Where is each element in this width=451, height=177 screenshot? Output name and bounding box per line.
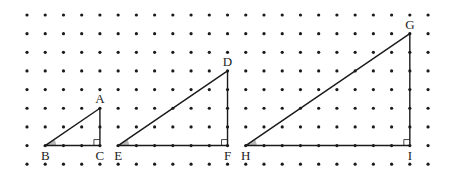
grid-dot — [335, 32, 338, 35]
vertex-label: H — [241, 148, 250, 163]
grid-dot — [335, 107, 338, 110]
grid-dot — [208, 88, 211, 91]
grid-dot — [80, 69, 83, 72]
grid-dot — [80, 32, 83, 35]
grid-dot — [62, 88, 65, 91]
diagram-svg: ABCDEFGHI — [0, 0, 451, 177]
grid-dot — [80, 107, 83, 110]
grid-dot — [426, 144, 429, 147]
grid-dot — [281, 32, 284, 35]
triangles: ABCDEFGHI — [41, 17, 415, 163]
grid-dot — [426, 125, 429, 128]
grid-dot — [80, 13, 83, 16]
grid-dot — [372, 88, 375, 91]
grid-dot — [335, 125, 338, 128]
grid-dot — [171, 125, 174, 128]
grid-dot — [189, 125, 192, 128]
grid-dot — [262, 32, 265, 35]
grid-dot — [281, 125, 284, 128]
grid-dot — [354, 125, 357, 128]
grid-dot — [117, 51, 120, 54]
vertex-label: D — [223, 54, 232, 69]
grid-dot — [226, 32, 229, 35]
grid-dot — [189, 32, 192, 35]
grid-dot — [44, 163, 47, 166]
grid-dot — [44, 51, 47, 54]
grid-dot — [208, 125, 211, 128]
grid-dot — [135, 13, 138, 16]
grid-dot — [98, 13, 101, 16]
grid-dot — [153, 107, 156, 110]
grid-dot — [299, 51, 302, 54]
grid-dot — [62, 32, 65, 35]
dot-grid-diagram: ABCDEFGHI — [0, 0, 451, 177]
grid-dot — [390, 69, 393, 72]
grid-dot — [299, 88, 302, 91]
grid-dot — [262, 88, 265, 91]
grid-dot — [335, 69, 338, 72]
grid-dot — [354, 163, 357, 166]
grid-dot — [25, 88, 28, 91]
triangle-outline — [246, 34, 410, 146]
grid-dot — [25, 125, 28, 128]
grid-dot — [317, 107, 320, 110]
grid-dot — [189, 163, 192, 166]
grid-dot — [426, 32, 429, 35]
grid-dot — [281, 107, 284, 110]
grid-dot — [117, 69, 120, 72]
grid-dot — [25, 69, 28, 72]
grid-dot — [299, 125, 302, 128]
grid-dot — [354, 32, 357, 35]
grid-dot — [299, 13, 302, 16]
grid-dot — [62, 51, 65, 54]
grid-dot — [171, 88, 174, 91]
grid-dot — [62, 107, 65, 110]
grid-dot — [171, 69, 174, 72]
grid-dot — [171, 51, 174, 54]
grid-dot — [153, 51, 156, 54]
grid-dot — [281, 88, 284, 91]
grid-dot — [390, 125, 393, 128]
grid-dot — [244, 88, 247, 91]
grid-dot — [372, 13, 375, 16]
grid-dot — [208, 163, 211, 166]
grid-dot — [244, 107, 247, 110]
grid-dot — [262, 51, 265, 54]
grid-dot — [135, 88, 138, 91]
grid-dot — [281, 51, 284, 54]
grid-dot — [317, 88, 320, 91]
grid-dot — [390, 13, 393, 16]
grid-dot — [208, 32, 211, 35]
grid-dot — [317, 13, 320, 16]
grid-dot — [44, 69, 47, 72]
grid-dot — [117, 32, 120, 35]
vertex-label: E — [114, 148, 122, 163]
grid-dot — [281, 13, 284, 16]
grid-dot — [189, 69, 192, 72]
grid-dot — [62, 69, 65, 72]
grid-dot — [44, 107, 47, 110]
grid-dot — [98, 51, 101, 54]
grid-dot — [262, 125, 265, 128]
grid-dot — [80, 51, 83, 54]
grid-dot — [335, 163, 338, 166]
grid-dot — [117, 125, 120, 128]
grid-dot — [372, 32, 375, 35]
grid-dot — [117, 88, 120, 91]
triangle-outline — [45, 108, 100, 145]
grid-dot — [171, 163, 174, 166]
triangle-outline — [118, 71, 227, 146]
grid-dot — [117, 163, 120, 166]
grid-dot — [98, 69, 101, 72]
grid-dot — [171, 13, 174, 16]
grid-dot — [317, 125, 320, 128]
grid-dot — [317, 32, 320, 35]
grid-dot — [244, 163, 247, 166]
grid-dot — [372, 107, 375, 110]
grid-dot — [25, 32, 28, 35]
grid-dot — [262, 69, 265, 72]
grid-dot — [317, 69, 320, 72]
vertex-label: C — [96, 148, 105, 163]
grid-dot — [372, 163, 375, 166]
grid-dot — [244, 32, 247, 35]
